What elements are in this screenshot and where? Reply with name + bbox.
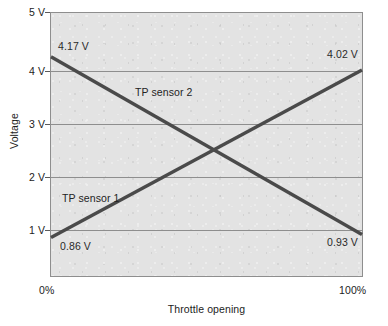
series-label-tp-sensor-1: TP sensor 1 [62,192,120,204]
y-tick-label-4v: 4 V [0,65,45,77]
annotation-tp-sensor-1-start-value: 0.86 V [60,240,91,252]
series-label-tp-sensor-2: TP sensor 2 [135,86,193,98]
y-tick-label-2v: 2 V [0,171,45,183]
y-tick-label-1v: 1 V [0,224,45,236]
series-line-tp-sensor-2 [51,57,362,235]
x-tick-label-0-percent: 0% [39,284,54,296]
tp-sensor-voltage-chart: 5 V 4 V 3 V 2 V 1 V 0% 100% Voltage Thro… [0,0,388,326]
annotation-tp-sensor-2-start-value: 4.17 V [58,40,89,52]
annotation-tp-sensor-1-end-value: 4.02 V [327,48,358,60]
annotation-tp-sensor-2-end-value: 0.93 V [327,236,358,248]
x-tick-label-100-percent: 100% [339,284,366,296]
y-axis-ticks [45,13,50,231]
y-tick-label-5v: 5 V [0,6,45,18]
y-axis-title: Voltage [8,91,20,171]
y-tick-label-3v: 3 V [0,118,45,130]
series-line-tp-sensor-1 [51,70,362,237]
x-axis-title: Throttle opening [50,303,363,315]
